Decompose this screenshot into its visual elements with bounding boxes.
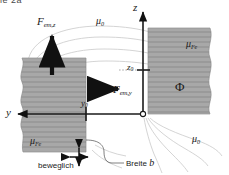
force-label-em-z: Fem,z xyxy=(37,16,55,29)
mu-0-top-label: μ0 xyxy=(96,16,104,27)
flux-symbol-label: Φ xyxy=(175,80,185,93)
mu-fe-right-label: μFe xyxy=(186,39,197,50)
mu-fe-left-label: μFe xyxy=(30,136,41,147)
breite-symbol: b xyxy=(149,157,154,168)
origin-marker xyxy=(140,111,145,116)
y0-tick-label: y0 xyxy=(81,99,88,109)
axis-label-y: y xyxy=(6,107,11,118)
axis-label-z: z xyxy=(133,2,137,13)
beweglich-label: beweglich xyxy=(38,162,74,170)
mu-0-bottom-label: μ0 xyxy=(192,134,200,145)
breite-leader xyxy=(86,140,124,163)
breite-label: Breite b xyxy=(126,158,154,168)
magnetic-circuit-figure: ie 2a xyxy=(0,0,229,175)
force-label-em-y: Fem,y xyxy=(113,84,132,97)
z0-tick-label: z0 xyxy=(127,63,133,73)
right-iron-block xyxy=(144,28,216,114)
